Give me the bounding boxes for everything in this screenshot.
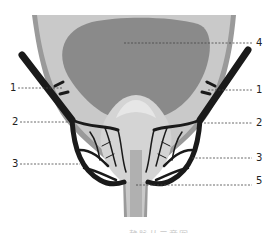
urethra: [130, 150, 142, 217]
label-left-1: 1: [10, 83, 16, 93]
label-right-2: 2: [256, 118, 262, 128]
anatomy-diagram: [0, 0, 276, 233]
label-right-4: 4: [256, 38, 262, 48]
label-right-5: 5: [256, 176, 262, 186]
label-left-2: 2: [12, 117, 18, 127]
label-right-3: 3: [256, 153, 262, 163]
figure-caption: ·· ·· ···· 静脉丛示意图: [0, 228, 276, 233]
label-left-3: 3: [12, 159, 18, 169]
label-right-1: 1: [256, 85, 262, 95]
